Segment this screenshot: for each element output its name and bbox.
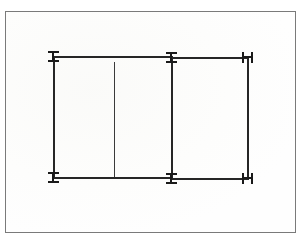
terminal-serif-bottom	[166, 182, 177, 184]
terminal-serif-bottom	[48, 60, 59, 62]
terminal-top-left	[48, 51, 59, 62]
line-bottom-right-span	[171, 178, 249, 180]
terminal-serif-right	[251, 173, 253, 184]
page-border	[5, 11, 296, 233]
line-middle-edge	[171, 57, 173, 179]
terminal-bottom-right	[242, 173, 253, 184]
terminal-top-middle	[166, 52, 177, 63]
terminal-serif-bottom	[48, 181, 59, 183]
line-interior-partition	[114, 62, 115, 177]
terminal-bottom-middle	[166, 173, 177, 184]
terminal-serif-right	[251, 52, 253, 63]
terminal-serif-bottom	[166, 61, 177, 63]
paper-texture	[6, 12, 295, 232]
terminal-top-right	[242, 52, 253, 63]
line-bottom-left-span	[53, 177, 173, 179]
drawing-page: Scanned engineering line drawing: two ad…	[0, 0, 305, 244]
line-top-left-span	[53, 56, 173, 58]
line-right-edge	[247, 57, 249, 179]
line-left-edge	[53, 56, 55, 179]
line-top-right-span	[171, 57, 249, 59]
terminal-bottom-left	[48, 172, 59, 183]
